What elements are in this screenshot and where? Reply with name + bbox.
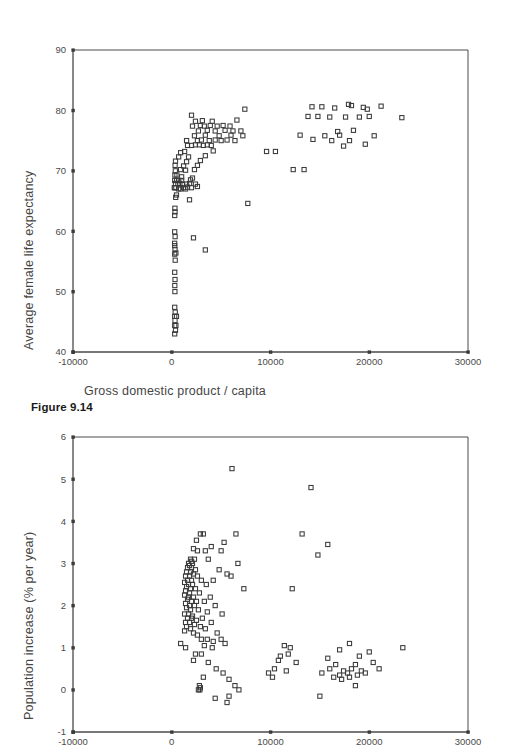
- svg-text:2: 2: [61, 600, 66, 611]
- figure-population-increase: -10123456-100000100002000030000 Populati…: [0, 420, 508, 754]
- svg-text:50: 50: [55, 286, 66, 297]
- y-axis-ticks: -10123456: [58, 431, 75, 737]
- y-axis-label-population-increase: Population increase (% per year): [22, 532, 36, 720]
- svg-text:20000: 20000: [356, 736, 382, 747]
- plot-frame: [73, 50, 468, 352]
- svg-text:4: 4: [61, 516, 66, 527]
- svg-text:10000: 10000: [257, 736, 283, 747]
- svg-text:30000: 30000: [455, 736, 481, 747]
- plot-frame: [73, 437, 468, 732]
- x-axis-ticks: -100000100002000030000: [58, 350, 481, 367]
- svg-text:5: 5: [61, 474, 66, 485]
- svg-text:0: 0: [61, 684, 66, 695]
- x-axis-ticks: -100000100002000030000: [58, 730, 481, 747]
- svg-text:-10000: -10000: [58, 736, 88, 747]
- svg-text:20000: 20000: [356, 356, 382, 367]
- svg-text:10000: 10000: [257, 356, 283, 367]
- svg-text:90: 90: [55, 44, 66, 55]
- data-points: [179, 467, 405, 705]
- svg-text:1: 1: [61, 642, 66, 653]
- svg-text:0: 0: [169, 736, 174, 747]
- svg-text:0: 0: [169, 356, 174, 367]
- plot-area-life-expectancy: 405060708090-100000100002000030000: [0, 0, 508, 420]
- figure-life-expectancy: 405060708090-100000100002000030000 Avera…: [0, 0, 508, 420]
- x-axis-label-gdp: Gross domestic product / capita: [84, 384, 266, 398]
- y-axis-ticks: 405060708090: [55, 44, 74, 357]
- data-points: [172, 102, 404, 336]
- svg-text:3: 3: [61, 558, 66, 569]
- plot-area-population-increase: -10123456-100000100002000030000: [0, 420, 508, 754]
- scatter-plot-population-increase: -10123456-100000100002000030000: [0, 420, 508, 754]
- svg-text:70: 70: [55, 165, 66, 176]
- y-axis-label-life-expectancy: Average female life expectancy: [22, 171, 36, 350]
- svg-text:80: 80: [55, 105, 66, 116]
- scatter-plot-life-expectancy: 405060708090-100000100002000030000: [0, 0, 508, 420]
- svg-text:60: 60: [55, 226, 66, 237]
- svg-text:-10000: -10000: [58, 356, 88, 367]
- svg-text:30000: 30000: [455, 356, 481, 367]
- figure-caption: Figure 9.14: [31, 401, 93, 413]
- svg-text:6: 6: [61, 431, 66, 442]
